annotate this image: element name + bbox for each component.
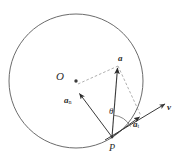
label-acceleration-a: a	[118, 54, 123, 63]
center-point-dot	[74, 79, 77, 82]
point-p-dot	[111, 136, 114, 139]
label-at-subscript: t	[138, 123, 140, 129]
label-velocity-v: v	[167, 103, 171, 112]
label-tangential-acceleration-at: at	[133, 120, 139, 129]
acceleration-vector	[112, 68, 118, 137]
label-point-p: P	[109, 143, 115, 153]
dashed-parallel-lower	[118, 66, 141, 116]
dashed-parallel-upper	[78, 66, 118, 84]
figure-canvas: O P a an at v θ	[0, 0, 184, 165]
label-angle-theta: θ	[109, 107, 113, 116]
label-center-o: O	[56, 71, 64, 82]
label-an-subscript: n	[69, 99, 72, 105]
normal-acceleration-vector	[80, 94, 113, 138]
vector-diagram-svg	[0, 0, 184, 165]
label-normal-acceleration-an: an	[64, 96, 72, 105]
